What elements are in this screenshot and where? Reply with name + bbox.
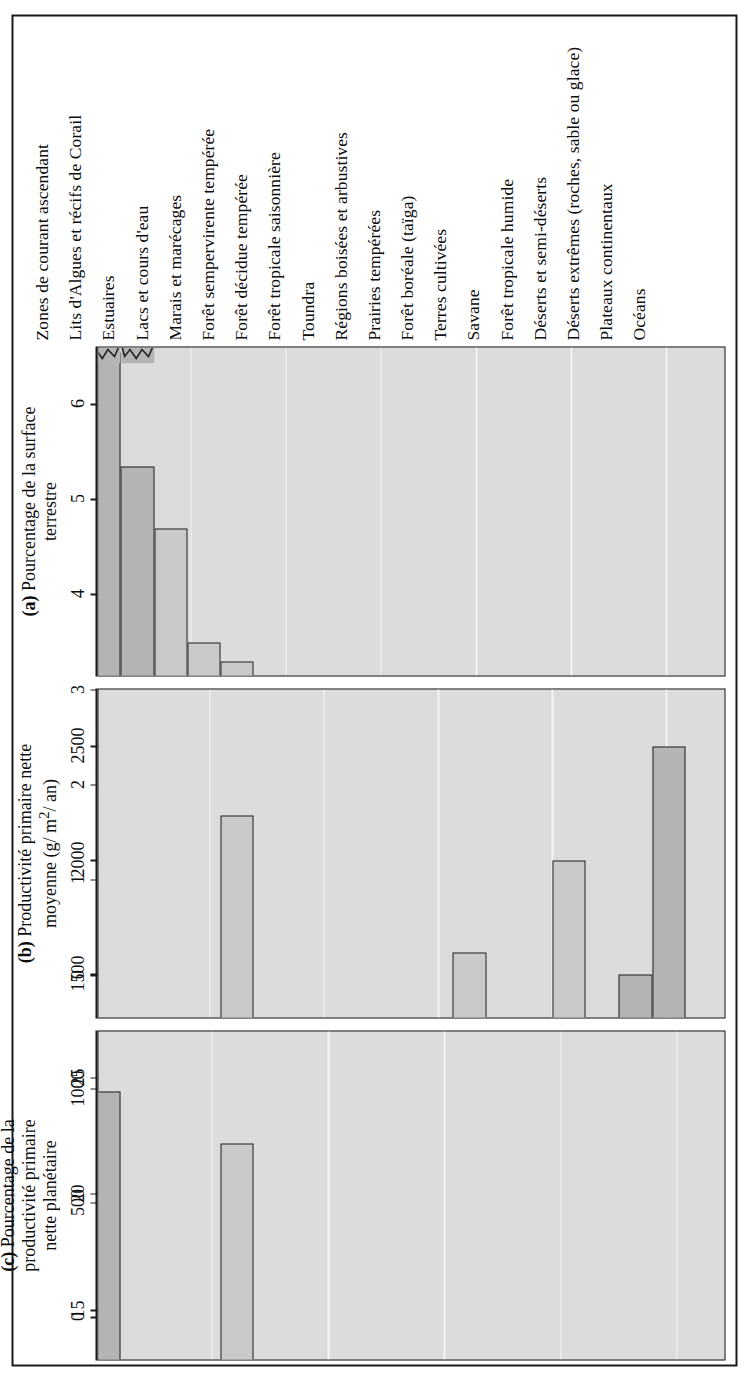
axis-break-marker [97,347,120,363]
category-label: Forêt décidue tempérée [224,24,257,342]
panel-c-title-line1: Pourcentage de la [0,1119,17,1247]
panel-a-title-line2: terrestre [40,346,61,676]
category-label: Plateaux continentaux [589,24,622,342]
panel-a-title: (a) Pourcentage de la surface terrestre [19,346,61,676]
rotated-figure-canvas: Zones de courant ascendantLits d'Algues … [0,0,747,1383]
bar [220,815,253,1018]
axis-tick [90,745,97,747]
category-label: Prairies tempérées [357,24,390,342]
category-label: Toundra [291,24,324,342]
axis-tick [90,498,97,500]
axis-tick-label: 25 [67,1068,88,1086]
category-label-column: Zones de courant ascendantLits d'Algues … [19,24,725,342]
category-label: Forêt tropicale saisonnière [257,24,290,342]
category-label: Forêt sempervirente tempérée [191,24,224,342]
panel-a-title-line1: Pourcentage de la surface [19,406,39,590]
bar [97,352,120,676]
axis-tick-label: 6 [67,399,88,408]
bar [120,466,153,676]
category-label: Océans [622,24,655,342]
category-label: Déserts et semi-déserts [523,24,556,342]
category-label: Forêt boréale (taïga) [390,24,423,342]
panel-b-plot-area [97,688,725,1018]
panel-a-plot-area: 65,05,24,73,53,32,92,72,41,81,71,61,51,3… [97,346,725,676]
panel-c-title: (c) Pourcentage de la productivité prima… [0,1030,61,1360]
panel-b-letter: (b) [15,941,35,963]
bar [97,1091,120,1360]
axis-tick [90,1193,97,1195]
axis-tick-label: 1500 [67,955,88,991]
figure-page: Zones de courant ascendantLits d'Algues … [0,0,747,1383]
bar [220,661,253,676]
axis-tick [90,593,97,595]
category-label: Lits d'Algues et récifs de Corail [58,24,91,342]
category-label: Forêt tropicale humide [490,24,523,342]
axis-tick [90,403,97,405]
bar [452,952,485,1018]
panel-b-title-line1: Productivité primaire nette [15,743,35,936]
axis-tick [90,973,97,975]
axis-tick [90,859,97,861]
bar [652,746,685,1018]
bar [154,528,187,676]
category-label: Lacs et cours d'eau [125,24,158,342]
panel-c-bars [98,1031,724,1359]
axis-break-marker [120,347,153,363]
bar [618,974,651,1018]
panel-a-axis: 0123456 (a) Pourcentage de la surface te… [19,346,97,676]
bar [220,1143,253,1360]
axis-tick [90,1077,97,1079]
axis-tick-label: 4 [67,589,88,598]
panel-c-title-line2: productivité primaire [19,1030,40,1360]
panel-a-bars: 65,05,24,73,53,32,92,72,41,81,71,61,51,3… [98,347,724,675]
panel-c-pourcentage-productivite: 0510152025 (c) Pourcentage de la product… [19,1030,725,1360]
panel-a-axis-line [95,346,97,676]
axis-tick-label: 15 [67,1300,88,1318]
category-label: Marais et marécages [158,24,191,342]
panel-b-axis: 05001000150020002500 (b) Productivité pr… [19,688,97,1018]
panel-a-letter: (a) [19,595,39,616]
category-label: Savane [456,24,489,342]
figure-frame: Zones de courant ascendantLits d'Algues … [11,14,737,1366]
panel-c-plot-area [97,1030,725,1360]
category-label: Zones de courant ascendant [25,24,58,342]
panel-b-title: (b) Productivité primaire nette moyenne … [15,688,61,1018]
panel-a-surface-terrestre: 65,05,24,73,53,32,92,72,41,81,71,61,51,3… [19,346,725,676]
axis-tick-label: 5 [67,494,88,503]
bar [552,860,585,1018]
panel-c-axis: 0510152025 (c) Pourcentage de la product… [19,1030,97,1360]
panel-b-bars [98,689,724,1017]
axis-tick-label: 2000 [67,841,88,877]
panel-c-letter: (c) [0,1251,17,1271]
category-label: Régions boisées et arbustives [324,24,357,342]
panel-b-productivite-moyenne: 05001000150020002500 (b) Productivité pr… [19,688,725,1018]
panel-b-axis-line [95,688,97,1018]
panel-b-title-line2: moyenne (g/ m2/ an) [36,688,61,1018]
bar [187,642,220,676]
panel-c-title-line3: nette planétaire [40,1030,61,1360]
axis-tick-label: 2500 [67,727,88,763]
axis-tick-label: 20 [67,1184,88,1202]
category-label: Déserts extrêmes (roches, sable ou glace… [556,24,589,342]
axis-tick [90,1309,97,1311]
category-label: Estuaires [91,24,124,342]
category-label: Terres cultivées [423,24,456,342]
